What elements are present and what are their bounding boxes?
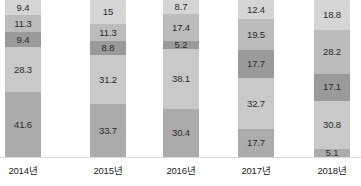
bar-segment: 17.1 (314, 74, 350, 101)
bar-segment: 28.3 (5, 47, 41, 91)
x-axis-baseline (0, 157, 361, 158)
bar-segment: 17.7 (238, 129, 274, 157)
segment-value-label: 30.4 (172, 128, 190, 138)
bar-segment: 8.8 (90, 41, 126, 55)
bar-2014년: 9.411.39.428.341.6 (5, 0, 41, 157)
segment-value-label: 38.1 (172, 74, 190, 84)
segment-value-label: 5.2 (175, 41, 188, 49)
segment-value-label: 30.8 (323, 120, 341, 130)
segment-value-label: 33.7 (99, 126, 117, 136)
bar-segment: 33.7 (90, 104, 126, 157)
bar-segment: 30.4 (163, 109, 199, 157)
segment-value-label: 31.2 (99, 75, 117, 85)
segment-value-label: 9.4 (17, 35, 30, 45)
bar-segment: 38.1 (163, 49, 199, 109)
segment-value-label: 41.6 (14, 120, 32, 130)
x-axis-label: 2018년 (304, 163, 360, 177)
bar-segment: 8.7 (163, 0, 199, 14)
segment-value-label: 32.7 (247, 99, 265, 109)
bar-segment: 28.2 (314, 30, 350, 74)
bar-segment: 11.3 (90, 24, 126, 42)
segment-value-label: 18.8 (323, 10, 341, 20)
bar-segment: 5.2 (163, 41, 199, 49)
bar-segment: 9.4 (5, 32, 41, 47)
x-axis-label: 2015년 (80, 163, 136, 177)
segment-value-label: 11.3 (14, 19, 31, 29)
bar-segment: 17.7 (238, 50, 274, 78)
x-axis-label: 2014년 (0, 163, 51, 177)
bar-segment: 31.2 (90, 55, 126, 104)
segment-value-label: 5.1 (326, 149, 339, 157)
bar-segment: 30.8 (314, 101, 350, 149)
x-axis-label-row: 2014년2015년2016년2017년2018년 (0, 160, 361, 180)
bar-segment: 17.4 (163, 14, 199, 41)
bar-2015년: 1511.38.831.233.7 (90, 0, 126, 157)
segment-value-label: 17.7 (247, 138, 265, 148)
segment-value-label: 28.2 (323, 47, 341, 57)
bar-segment: 41.6 (5, 92, 41, 157)
segment-value-label: 8.7 (175, 2, 188, 12)
bar-segment: 19.5 (238, 19, 274, 50)
bar-segment: 32.7 (238, 78, 274, 129)
bar-segment: 5.1 (314, 149, 350, 157)
segment-value-label: 17.4 (172, 23, 190, 33)
segment-value-label: 8.8 (102, 43, 115, 53)
segment-value-label: 28.3 (14, 65, 32, 75)
segment-value-label: 15 (103, 7, 113, 17)
bar-segment: 11.3 (5, 15, 41, 33)
bar-segment: 12.4 (238, 0, 274, 19)
bar-segment: 9.4 (5, 0, 41, 15)
segment-value-label: 17.7 (247, 59, 265, 69)
stacked-bar-chart: 9.411.39.428.341.61511.38.831.233.78.717… (0, 0, 361, 186)
segment-value-label: 11.3 (99, 28, 116, 38)
segment-value-label: 9.4 (17, 3, 30, 13)
bar-2018년: 18.828.217.130.85.1 (314, 0, 350, 157)
bar-2017년: 12.419.517.732.717.7 (238, 0, 274, 157)
segment-value-label: 12.4 (247, 5, 265, 15)
bar-2016년: 8.717.45.238.130.4 (163, 0, 199, 157)
segment-value-label: 19.5 (247, 30, 265, 40)
x-axis-label: 2017년 (228, 163, 284, 177)
x-axis-label: 2016년 (153, 163, 209, 177)
bar-segment: 15 (90, 0, 126, 24)
bar-segment: 18.8 (314, 0, 350, 30)
segment-value-label: 17.1 (323, 82, 341, 92)
plot-area: 9.411.39.428.341.61511.38.831.233.78.717… (0, 0, 361, 157)
